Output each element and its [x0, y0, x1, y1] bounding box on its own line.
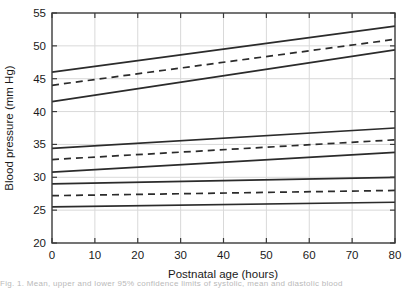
y-tick-label: 40 [33, 106, 46, 118]
y-tick-label: 55 [33, 7, 46, 19]
y-tick-label: 50 [33, 40, 46, 52]
x-tick-label: 70 [346, 249, 359, 261]
x-tick-label: 80 [389, 249, 402, 261]
y-tick-label: 35 [33, 138, 46, 150]
y-tick-label: 45 [33, 73, 46, 85]
y-tick-label: 20 [33, 237, 46, 249]
y-axis-tick-labels: 2025303540455055 [33, 7, 46, 249]
x-tick-label: 30 [174, 249, 187, 261]
y-tick-label: 30 [33, 171, 46, 183]
x-tick-label: 60 [303, 249, 316, 261]
x-tick-label: 10 [88, 249, 101, 261]
x-axis-tick-labels: 01020304050607080 [49, 249, 402, 261]
x-tick-label: 0 [49, 249, 55, 261]
figure-container: 2025303540455055 01020304050607080 Postn… [0, 0, 412, 289]
blood-pressure-line-chart: 2025303540455055 01020304050607080 Postn… [0, 0, 412, 289]
x-tick-label: 50 [260, 249, 273, 261]
y-axis-title: Blood pressure (mm Hg) [3, 65, 15, 190]
figure-caption: Fig. 1. Mean, upper and lower 95% confid… [0, 279, 412, 289]
x-tick-label: 40 [217, 249, 230, 261]
x-tick-label: 20 [131, 249, 144, 261]
y-tick-label: 25 [33, 204, 46, 216]
